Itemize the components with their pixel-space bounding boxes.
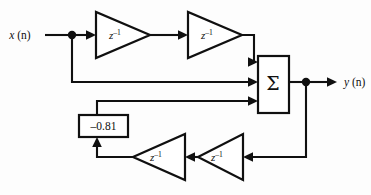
delay-top-2-triangle — [188, 12, 242, 58]
arrow-into-delay1 — [86, 30, 96, 40]
arrow-into-delay2 — [178, 30, 188, 40]
arrow-output — [327, 77, 337, 87]
arrow-into-delay-bottom-right — [243, 152, 253, 162]
arrow-into-gain — [92, 137, 102, 147]
delay-bottom-right-exponent: –1 — [214, 150, 223, 159]
arrow-into-delay-bottom-left — [185, 152, 195, 162]
output-label-arg: (n) — [349, 76, 365, 89]
delay-top-1-triangle — [96, 12, 150, 58]
delay-top-1-exponent: –1 — [112, 28, 121, 37]
delay-bottom-left-exponent: –1 — [153, 150, 162, 159]
delay-top-2-exponent: –1 — [204, 28, 213, 37]
input-label-arg: (n) — [14, 29, 30, 42]
input-label: x (n) — [8, 29, 31, 42]
output-label: y (n) — [343, 76, 366, 89]
wire-gain-to-summer — [97, 101, 249, 115]
arrow-summer-input-3 — [248, 96, 258, 106]
arrow-summer-input-2 — [248, 77, 258, 87]
summation-symbol: Σ — [266, 72, 279, 94]
wire-delay-bl-to-gain — [97, 146, 133, 157]
gain-label: –0.81 — [90, 120, 117, 132]
diagram-canvas: x (n) y (n) z–1 z–1 Σ –0.81 z–1 z–1 — [0, 0, 371, 195]
signal-flow-diagram: x (n) y (n) z–1 z–1 Σ –0.81 z–1 z–1 — [0, 0, 371, 195]
